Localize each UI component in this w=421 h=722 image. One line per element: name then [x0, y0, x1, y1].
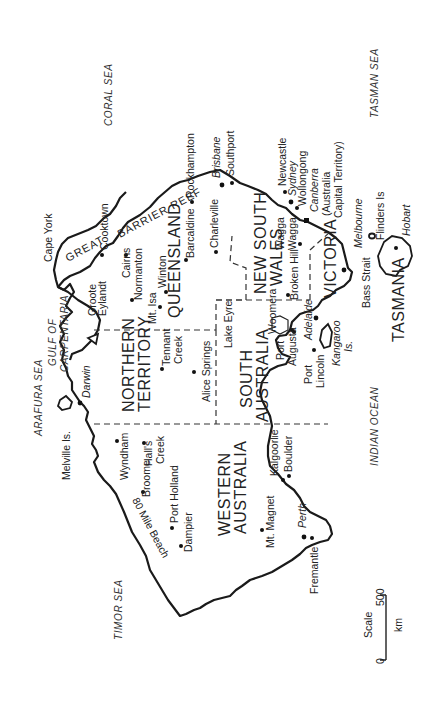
city-dampier: Dampier [179, 512, 194, 552]
sea-tasman: TASMAN SEA [369, 48, 380, 118]
label-groote-2: Eylandt [96, 281, 108, 316]
label-flinders: Flinders Is [374, 192, 386, 240]
state-wa-1: WESTERN [216, 453, 233, 537]
svg-text:Port: Port [274, 341, 286, 360]
svg-text:Brisbane: Brisbane [210, 136, 222, 178]
label-melville: Melville Is. [60, 431, 72, 480]
sea-arafura: ARAFURA SEA [33, 359, 44, 437]
state-tas: TASMANIA [390, 257, 407, 342]
svg-text:Wyndham: Wyndham [118, 433, 130, 480]
city-normanton: Normanton [130, 248, 144, 302]
svg-text:Creek: Creek [172, 335, 184, 364]
city-charleville: Charleville [208, 199, 220, 254]
svg-text:Woomera: Woomera [266, 289, 278, 334]
svg-text:Kalgoorlie: Kalgoorlie [268, 429, 280, 476]
city-brisbane: Brisbane [210, 136, 224, 187]
city-barcaldine: Barcaldine [184, 208, 196, 262]
sea-coral: CORAL SEA [103, 64, 114, 126]
svg-text:Hobart: Hobart [400, 203, 412, 236]
svg-text:Augusta: Augusta [286, 327, 298, 366]
svg-text:Mt. Magnet: Mt. Magnet [264, 495, 276, 548]
sea-timor: TIMOR SEA [113, 580, 124, 640]
svg-text:Darwin: Darwin [80, 365, 92, 398]
svg-text:Winton: Winton [156, 255, 168, 288]
city-boulder: Boulder [282, 435, 294, 478]
svg-text:Wagga: Wagga [286, 217, 298, 250]
label-bass-strait: Bass Strait [360, 257, 372, 308]
city-southport: Southport [224, 130, 236, 185]
svg-text:Lincoln: Lincoln [314, 355, 326, 388]
city-broken-hill: Broken Hill [286, 249, 300, 300]
svg-text:Alice Springs: Alice Springs [200, 341, 212, 402]
city-perth: Perth [296, 503, 308, 540]
state-nt-1: NORTHERN [120, 318, 137, 412]
svg-text:Wagga: Wagga [274, 217, 286, 250]
city-port-lincoln: Port Lincoln [302, 348, 326, 388]
melville-island [58, 396, 72, 410]
svg-text:Boulder: Boulder [282, 435, 294, 472]
city-mt-magnet: Mt. Magnet [260, 495, 276, 548]
svg-text:Fremantle: Fremantle [308, 547, 320, 594]
svg-text:Cairns: Cairns [120, 248, 132, 278]
svg-text:(Australia: (Australia [320, 171, 332, 216]
svg-text:Mt. Isa: Mt. Isa [146, 292, 158, 324]
city-wagga-wagga: Wagga Wagga [274, 217, 302, 250]
scale-max: 500 [374, 588, 386, 606]
label-kangaroo-2: Is. [342, 341, 354, 352]
svg-text:Broken Hill: Broken Hill [288, 249, 300, 300]
svg-text:Perth: Perth [296, 503, 308, 528]
state-qld: QUEENSLAND [166, 203, 183, 318]
sea-indian: INDIAN OCEAN [369, 386, 380, 466]
city-adelaide: Adelaide [302, 299, 318, 341]
city-cairns: Cairns [120, 248, 132, 278]
state-wa-2: AUSTRALIA [232, 441, 249, 534]
svg-text:Creek: Creek [154, 435, 166, 464]
state-vic: VICTORIA [322, 219, 339, 298]
city-canberra: Canberra (Australia Capital Territory) [304, 141, 344, 223]
svg-text:Broome: Broome [140, 460, 152, 497]
city-mt-isa: Mt. Isa [146, 292, 162, 324]
svg-text:Dampier: Dampier [182, 512, 194, 552]
city-wollongong: Wollongong [295, 151, 308, 210]
svg-text:Charleville: Charleville [208, 199, 220, 248]
svg-text:Adelaide: Adelaide [302, 299, 314, 341]
city-wyndham: Wyndham [115, 433, 130, 480]
svg-text:Melbourne: Melbourne [352, 198, 364, 248]
city-tennant-creek: Tennant Creek [160, 329, 184, 371]
svg-text:Barcaldine: Barcaldine [184, 208, 196, 258]
svg-text:Rockhampton: Rockhampton [184, 133, 196, 198]
city-rockhampton: Rockhampton [184, 133, 196, 204]
border-qld-nsw [216, 236, 246, 300]
sea-gulf-1: GULF OF [47, 318, 58, 366]
label-kangaroo-1: Kangaroo [330, 320, 342, 366]
australia-map: CORAL SEA TASMAN SEA ARAFURA SEA TIMOR S… [0, 0, 421, 722]
label-80-mile-beach: 80 Mile Beach [130, 495, 172, 560]
state-sa-1: SOUTH [238, 350, 255, 409]
svg-text:Cooktown: Cooktown [98, 203, 110, 250]
svg-text:Port Holland: Port Holland [168, 465, 180, 523]
svg-text:Tennant: Tennant [160, 329, 172, 366]
sea-gulf-2: CARPENTARIA [59, 295, 70, 372]
city-broome: Broome [140, 460, 152, 497]
svg-text:Capital Territory): Capital Territory) [332, 141, 344, 218]
svg-text:Wollongong: Wollongong [296, 151, 308, 206]
scale-min: 0 [374, 658, 386, 664]
svg-text:Normanton: Normanton [132, 248, 144, 300]
label-lake-eyre: Lake Eyre [222, 301, 234, 348]
state-sa-2: AUSTRALIA [254, 329, 271, 422]
svg-text:Southport: Southport [224, 130, 236, 176]
city-darwin: Darwin [78, 365, 92, 405]
city-port-hedland: Port Holland [168, 465, 180, 530]
label-cape-york: Cape York [42, 213, 54, 262]
state-nsw-1: NEW SOUTH [252, 192, 269, 294]
scale-unit: km [392, 618, 404, 632]
svg-text:Canberra: Canberra [308, 168, 320, 212]
svg-text:Port: Port [302, 365, 314, 384]
city-alice-springs: Alice Springs [192, 341, 212, 402]
scale-label: Scale [362, 612, 374, 638]
city-winton: Winton [156, 255, 168, 294]
city-cooktown: Cooktown [98, 203, 110, 257]
state-nt-2: TERRITORY [136, 316, 153, 412]
scale-bar: Scale km 0 500 [362, 588, 404, 664]
